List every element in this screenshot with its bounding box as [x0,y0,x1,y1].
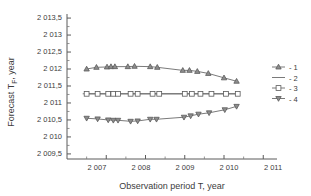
y-axis-title-main: Forecast T [6,83,16,126]
data-point [209,91,214,96]
y-tick-label: 2 010,5 [37,115,62,124]
x-tick-label: 2 009 [176,163,195,172]
legend-label-4: - 4 [289,95,298,104]
data-point [150,91,155,96]
series-4 [84,104,239,124]
y-tick-label: 2 010 [43,132,62,141]
data-point [106,91,111,96]
data-point [189,91,194,96]
x-axis-title: Observation period T, year [119,181,224,191]
x-tick-label: 2 011 [264,163,282,172]
legend-item-3[interactable]: - 3 [272,84,298,93]
y-axis-title: Forecast TF, year [6,57,18,126]
data-point [182,91,187,96]
y-tick-label: 2 009,5 [37,149,62,158]
legend-item-4[interactable]: - 4 [272,95,298,104]
x-tick-label: 2 010 [220,163,239,172]
y-axis-title-tail: , year [6,57,16,80]
legend-label-1: - 1 [289,63,298,72]
legend-item-2[interactable]: - 2 [272,74,298,83]
plot-series-group [83,63,240,124]
y-tick-label: 2 013 [43,30,62,39]
y-axis-tick-labels: 2 013,5 2 013 2 012,5 2 012 2 011,5 2 01… [37,13,62,158]
legend-item-1[interactable]: - 1 [272,63,298,72]
data-point [111,91,116,96]
y-tick-label: 2 011,5 [38,81,62,90]
data-point [128,91,133,96]
legend-label-2: - 2 [289,74,298,83]
data-point [128,119,133,124]
legend-marker-3 [276,86,281,91]
data-point [235,91,240,96]
data-point [198,91,203,96]
x-axis-title-text: Observation period T, year [119,181,224,191]
series-3 [84,91,240,96]
data-point [84,91,89,96]
x-tick-label: 2 008 [132,163,151,172]
y-tick-label: 2 012 [43,64,62,73]
axis-tick-marks [67,18,263,159]
data-point [157,91,162,96]
x-tick-label: 2 007 [88,163,107,172]
chart-canvas: 2 013,5 2 013 2 012,5 2 012 2 011,5 2 01… [0,0,311,196]
data-point [95,91,100,96]
legend-label-3: - 3 [289,84,298,93]
axis-frame [67,14,277,159]
data-point [116,91,121,96]
data-point [135,91,140,96]
y-tick-label: 2 012,5 [37,47,62,56]
data-point [224,91,229,96]
y-tick-label: 2 011 [44,98,62,107]
svg-text:Forecast TF, year: Forecast TF, year [6,57,18,126]
x-axis-tick-labels: 2 007 2 008 2 009 2 010 2 011 [88,163,283,172]
forecast-chart: 2 013,5 2 013 2 012,5 2 012 2 011,5 2 01… [0,0,311,196]
y-tick-label: 2 013,5 [37,13,62,22]
series-1 [84,63,239,83]
chart-legend: - 1- 2- 3- 4 [272,63,298,104]
